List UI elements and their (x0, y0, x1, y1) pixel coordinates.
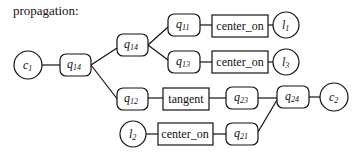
node-center-on-2: center_on (212, 51, 268, 73)
edge-q14b-q11 (148, 27, 168, 45)
node-center-on-1: center_on (212, 15, 268, 37)
node-q21: q21 (226, 123, 258, 145)
node-q11: q11 (168, 14, 200, 36)
svg-text:tangent: tangent (168, 92, 204, 106)
node-c2: c2 (320, 83, 348, 111)
svg-text:center_on: center_on (216, 55, 263, 69)
node-tangent: tangent (163, 88, 209, 110)
node-q14-second: q14 (117, 34, 148, 56)
node-q12: q12 (117, 88, 148, 110)
node-q23: q23 (226, 87, 258, 109)
svg-text:center_on: center_on (216, 19, 263, 33)
propagation-graph: c1 q14 q14 q11 center_on l1 q13 center_o… (0, 0, 358, 158)
edge-q21-q24 (258, 100, 277, 132)
node-center-on-3: center_on (158, 123, 213, 145)
node-l1: l1 (273, 12, 299, 38)
node-l2: l2 (120, 121, 146, 147)
node-q14-first: q14 (60, 54, 91, 76)
node-l3: l3 (273, 49, 299, 75)
edge-q14a-q12 (91, 65, 118, 100)
edge-q14b-q13 (148, 45, 168, 60)
svg-text:center_on: center_on (161, 127, 208, 141)
node-q24: q24 (277, 86, 309, 108)
node-q13: q13 (168, 51, 200, 73)
node-c1: c1 (14, 51, 42, 79)
edge-q14a-q14b (91, 48, 117, 65)
edges (42, 25, 320, 134)
